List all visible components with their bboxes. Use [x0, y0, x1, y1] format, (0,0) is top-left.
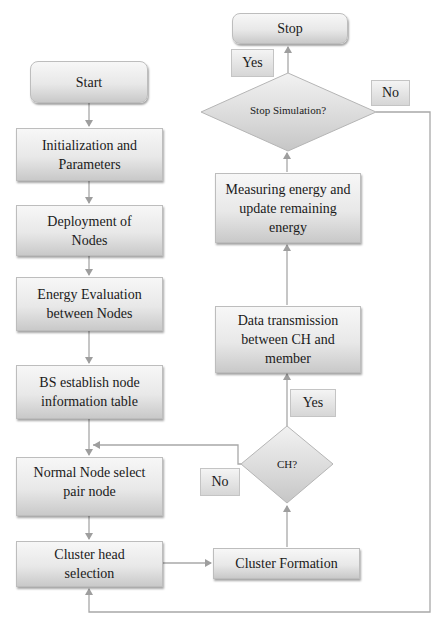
- stop-no-label: No: [371, 80, 410, 106]
- stop-yes-label: Yes: [231, 49, 274, 77]
- cluster-formation-label: Cluster Formation: [235, 554, 337, 573]
- stop-node: Stop: [232, 13, 348, 44]
- stop-decision-text: Stop Simulation?: [241, 102, 335, 118]
- stop-label: Stop: [277, 19, 303, 38]
- deploy-node: Deployment of Nodes: [16, 205, 163, 256]
- energy-eval-label: Energy Evaluation between Nodes: [25, 285, 155, 323]
- cluster-formation-node: Cluster Formation: [213, 548, 360, 579]
- start-label: Start: [76, 73, 102, 92]
- normal-node-node: Normal Node select pair node: [16, 457, 163, 516]
- ch-selection-label: Cluster head selection: [40, 545, 140, 583]
- normal-node-label: Normal Node select pair node: [30, 463, 150, 501]
- bs-table-label: BS establish node information table: [25, 373, 155, 411]
- start-node: Start: [30, 61, 148, 103]
- init-label: Initialization and Parameters: [25, 136, 155, 174]
- bs-table-node: BS establish node information table: [16, 365, 163, 419]
- ch-yes-label: Yes: [290, 389, 336, 417]
- ch-selection-node: Cluster head selection: [16, 541, 163, 587]
- energy-eval-node: Energy Evaluation between Nodes: [16, 277, 163, 331]
- data-tx-node: Data transmission between CH and member: [215, 306, 361, 373]
- measure-node: Measuring energy and update remaining en…: [215, 173, 361, 243]
- ch-no-label: No: [200, 468, 240, 496]
- data-tx-label: Data transmission between CH and member: [228, 311, 348, 368]
- ch-decision-text: CH?: [257, 456, 317, 472]
- measure-label: Measuring energy and update remaining en…: [223, 180, 353, 237]
- init-node: Initialization and Parameters: [16, 128, 163, 181]
- deploy-label: Deployment of Nodes: [35, 212, 145, 250]
